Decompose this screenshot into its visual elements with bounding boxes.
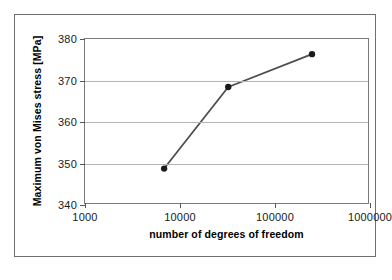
x-tick-label: 1000000	[348, 211, 392, 223]
gridline-horizontal	[85, 81, 368, 82]
x-tick-label: 100000	[256, 211, 294, 223]
x-tick-mark	[370, 203, 371, 208]
y-tick-label: 350	[58, 158, 77, 170]
chart-frame: Maximum von Mises stress [MPa] number of…	[14, 14, 376, 257]
data-point-marker	[161, 165, 167, 171]
data-point-marker	[309, 51, 315, 57]
series-line	[164, 54, 312, 168]
gridline-horizontal	[85, 122, 368, 123]
x-tick-label: 1000	[72, 211, 97, 223]
y-tick-label: 380	[58, 33, 77, 45]
x-tick-mark	[85, 203, 86, 208]
x-axis-title: number of degrees of freedom	[84, 228, 369, 240]
y-tick-label: 360	[58, 116, 77, 128]
data-point-marker	[225, 84, 231, 90]
y-tick-label: 370	[58, 75, 77, 87]
y-axis-title: Maximum von Mises stress [MPa]	[29, 38, 45, 204]
x-tick-mark	[180, 203, 181, 208]
plot-area: 340350360370380 1000100001000001000000	[84, 38, 369, 204]
data-series-layer	[85, 39, 368, 203]
x-tick-mark	[275, 203, 276, 208]
y-tick-label: 340	[58, 199, 77, 211]
x-tick-label: 10000	[164, 211, 196, 223]
gridline-horizontal	[85, 164, 368, 165]
